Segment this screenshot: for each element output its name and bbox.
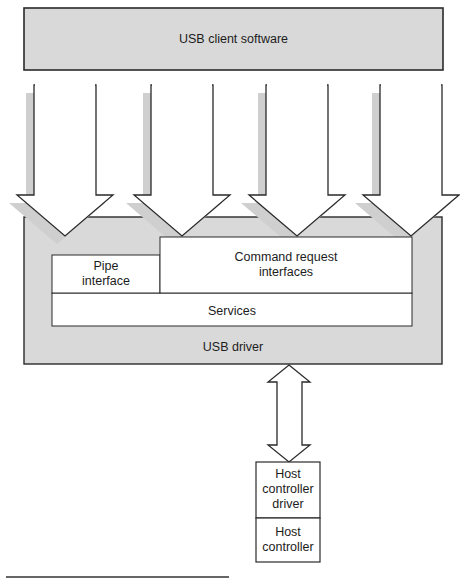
command-request-line2: interfaces xyxy=(160,265,412,280)
pipe-interface-line2: interface xyxy=(52,274,160,289)
double-arrow xyxy=(268,365,310,462)
pipe-interface-line1: Pipe xyxy=(52,259,160,274)
host-controller-driver-label: Host controller driver xyxy=(256,467,320,512)
services-label: Services xyxy=(52,304,412,319)
pipe-interface-label: Pipe interface xyxy=(52,259,160,289)
host-controller-label: Host controller xyxy=(256,525,320,555)
command-request-label: Command request interfaces xyxy=(160,250,412,280)
usb-client-software-label: USB client software xyxy=(24,32,443,47)
hcd-line1: Host xyxy=(256,467,320,482)
hc-line1: Host xyxy=(256,525,320,540)
diagram-canvas xyxy=(0,0,460,581)
hcd-line3: driver xyxy=(256,497,320,512)
command-request-line1: Command request xyxy=(160,250,412,265)
hc-line2: controller xyxy=(256,540,320,555)
hcd-line2: controller xyxy=(256,482,320,497)
usb-driver-label: USB driver xyxy=(24,340,442,355)
